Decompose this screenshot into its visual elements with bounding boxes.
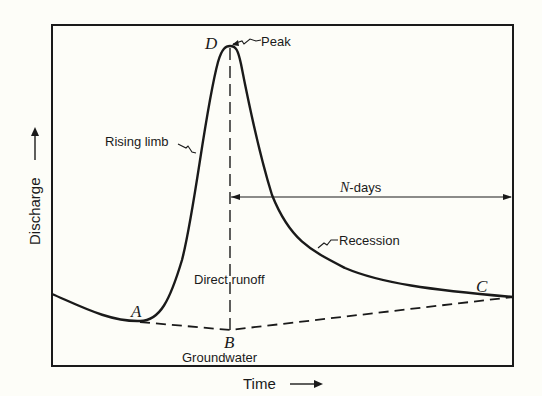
direct-runoff-label: Direct runoff [194, 272, 265, 287]
arrow-head-right-icon [503, 194, 512, 200]
groundwater-label: Groundwater [182, 350, 258, 365]
arrow-head-left-icon [231, 194, 240, 200]
hydrograph-diagram: D Peak Rising limb N-days Recession Dire… [0, 0, 542, 396]
baseflow-separation-line [140, 297, 513, 330]
y-axis-label: Discharge [26, 177, 43, 245]
point-c-label: C [476, 277, 488, 296]
rising-limb-leader-icon [178, 144, 196, 153]
n-days-label: N-days [339, 180, 382, 195]
x-axis-arrow-head-icon [314, 380, 323, 388]
point-a-label: A [130, 302, 142, 321]
hydrograph-curve [52, 46, 513, 321]
x-axis-label: Time [243, 375, 276, 392]
peak-leader-arrow-icon [232, 40, 239, 46]
recession-leader-icon [318, 240, 338, 248]
y-axis-arrow-head-icon [31, 127, 39, 136]
rising-limb-label: Rising limb [105, 134, 169, 149]
peak-label: Peak [261, 34, 291, 49]
point-d-label: D [204, 34, 218, 53]
plot-frame [52, 25, 513, 366]
recession-label: Recession [339, 233, 400, 248]
